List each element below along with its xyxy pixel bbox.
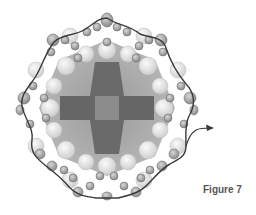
exit-arrow-line <box>186 128 210 146</box>
arrowhead-icon <box>206 125 214 132</box>
figure-caption: Figure 7 <box>203 184 242 195</box>
molecular-structure-figure <box>0 0 256 215</box>
center-square <box>95 96 119 120</box>
